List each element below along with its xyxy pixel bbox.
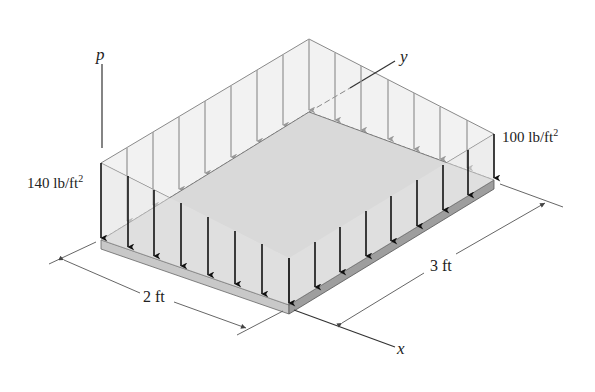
right-load-label: 100 lb/ft2 [502, 128, 558, 145]
p-axis-label: p [96, 46, 105, 63]
right-load-exp: 2 [553, 127, 558, 138]
width-dimension-label: 2 ft [143, 289, 165, 305]
left-load-value: 140 [27, 175, 50, 191]
x-axis-label: x [397, 340, 405, 357]
x-axis [294, 310, 395, 347]
length-dimension-label: 3 ft [430, 258, 452, 274]
left-load-unit: lb/ft [53, 175, 78, 191]
load-diagram [0, 0, 595, 392]
y-axis-label: y [400, 48, 408, 65]
right-load-value: 100 [502, 129, 525, 145]
left-load-exp: 2 [78, 173, 83, 184]
left-load-label: 140 lb/ft2 [27, 174, 83, 191]
right-load-unit: lb/ft [528, 129, 553, 145]
